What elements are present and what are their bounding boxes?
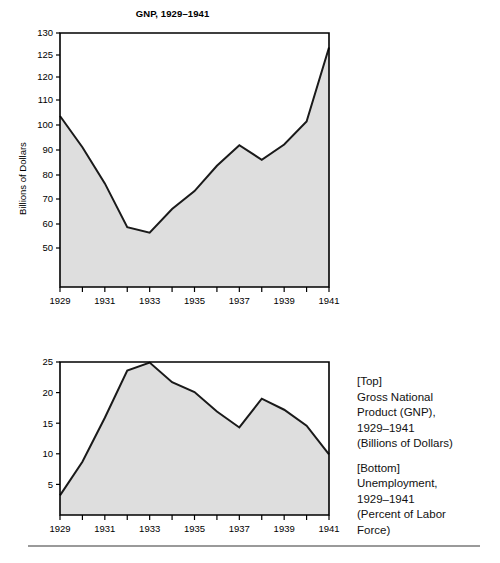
gnp-y-tick-label: 60 [42,218,53,229]
caption-bottom-label: [Bottom] [357,462,400,474]
unemployment-y-tick-label: 20 [42,387,53,398]
unemployment-x-tick-label: 1941 [318,523,339,534]
unemployment-x-tick-label: 1937 [229,523,250,534]
unemployment-plot-area: 5101520251929193119331935193719391941 [0,330,345,545]
caption-top-line-1: Gross National [357,391,433,403]
gnp-y-tick-label: 70 [42,193,53,204]
unemployment-y-tick-label: 5 [48,479,53,490]
gnp-x-tick-label: 1931 [94,295,115,306]
caption-top-line-2: Product (GNP), [357,406,436,418]
caption-top-line-4: (Billions of Dollars) [357,437,453,449]
gnp-x-tick-label: 1933 [139,295,160,306]
caption-bottom-line-3: (Percent of Labor [357,508,446,520]
gnp-x-tick-label: 1939 [274,295,295,306]
unemployment-x-tick-label: 1933 [139,523,160,534]
caption-bottom-paragraph: [Bottom] Unemployment, 1929–1941 (Percen… [357,461,497,539]
caption-top-paragraph: [Top] Gross National Product (GNP), 1929… [357,374,497,452]
gnp-y-tick-label: 125 [37,49,53,60]
unemployment-area-fill [60,363,329,515]
gnp-chart: GNP, 1929–1941 Billions of Dollars 50607… [0,0,345,320]
unemployment-y-tick-label: 15 [42,418,53,429]
gnp-area-fill [60,48,329,287]
gnp-plot-area: 5060708090100110120125130192919311933193… [0,0,345,320]
gnp-y-tick-label: 130 [37,27,53,38]
unemployment-x-tick-label: 1935 [184,523,205,534]
caption-top-label: [Top] [357,375,382,387]
gnp-x-tick-label: 1935 [184,295,205,306]
unemployment-y-tick-label: 25 [42,356,53,367]
caption-top-line-3: 1929–1941 [357,422,415,434]
gnp-y-tick-label: 110 [38,94,53,105]
unemployment-x-tick-label: 1931 [94,523,115,534]
gnp-y-tick-label: 100 [37,119,53,130]
gnp-y-tick-label: 120 [37,71,53,82]
gnp-x-tick-label: 1937 [229,295,250,306]
unemployment-x-tick-label: 1929 [49,523,70,534]
unemployment-y-tick-label: 10 [42,448,53,459]
caption-bottom-line-2: 1929–1941 [357,493,415,505]
figure-page: GNP, 1929–1941 Billions of Dollars 50607… [0,0,500,563]
figure-caption: [Top] Gross National Product (GNP), 1929… [357,374,497,538]
bottom-divider-rule [28,545,480,547]
unemployment-x-tick-label: 1939 [274,523,295,534]
gnp-y-tick-label: 90 [42,144,53,155]
gnp-y-tick-label: 80 [42,169,53,180]
gnp-y-tick-label: 50 [42,242,53,253]
caption-bottom-line-4: Force) [357,524,390,536]
unemployment-chart: Unemployment, 1929–1941 Percentage of La… [0,330,345,545]
gnp-x-tick-label: 1929 [49,295,70,306]
caption-bottom-line-1: Unemployment, [357,477,438,489]
gnp-x-tick-label: 1941 [318,295,339,306]
